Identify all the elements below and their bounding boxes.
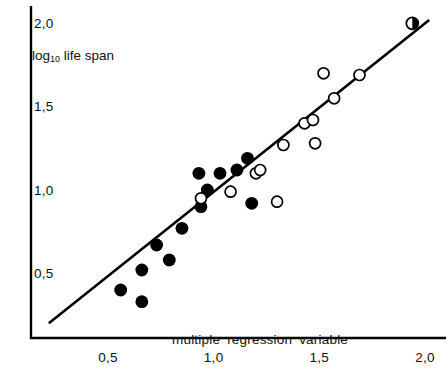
data-point-open [354, 70, 365, 81]
data-point-open [225, 186, 236, 197]
data-layer [49, 17, 429, 323]
y-axis-title-base: log [32, 48, 50, 63]
x-axis-title-word-3: variable [299, 332, 348, 347]
data-point-open [329, 93, 340, 104]
data-point-filled [192, 167, 205, 180]
data-point-filled [163, 254, 176, 267]
scatter-plot-figure: log10 life span multipleregressionvariab… [0, 0, 448, 372]
data-point-filled [176, 222, 189, 235]
y-tick-label: 1,5 [34, 99, 54, 114]
data-point-filled [150, 239, 163, 252]
x-tick-label: 1,0 [192, 350, 236, 365]
data-point-half-filled [406, 17, 418, 29]
y-axis-title-text: life span [64, 48, 114, 63]
y-tick-label: 1,0 [34, 183, 54, 198]
x-tick-label: 1,5 [297, 350, 341, 365]
data-point-open [307, 115, 318, 126]
y-axis-title-subscript: 10 [50, 54, 60, 64]
data-point-filled [214, 167, 227, 180]
data-point-open [195, 193, 206, 204]
data-point-open [272, 196, 283, 207]
data-point-filled [135, 295, 148, 308]
data-point-filled [241, 152, 254, 165]
x-axis-title: multipleregressionvariable [172, 332, 348, 347]
y-tick-label: 2,0 [34, 16, 54, 31]
data-point-filled [135, 264, 148, 277]
data-point-open [278, 140, 289, 151]
x-axis-title-word-1: multiple [172, 332, 220, 347]
x-axis-title-word-2: regression [227, 332, 292, 347]
x-tick-label: 2,0 [403, 350, 447, 365]
x-tick-label: 0,5 [86, 350, 130, 365]
data-point-open [310, 138, 321, 149]
data-point-open [318, 68, 329, 79]
y-tick-label: 0,5 [34, 266, 54, 281]
y-axis-title: log10 life span [32, 48, 114, 63]
data-point-filled [231, 164, 244, 177]
data-point-filled [245, 197, 258, 210]
data-point-open [255, 165, 266, 176]
data-point-filled [114, 284, 127, 297]
